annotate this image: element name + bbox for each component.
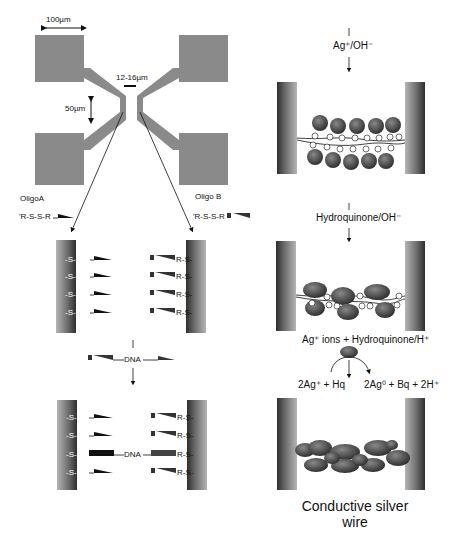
- oligo-a-strands: [90, 256, 112, 313]
- dna-label: DNA: [124, 355, 141, 364]
- dna-bridge-label: DNA: [124, 450, 141, 459]
- left-electrode-e: [276, 241, 296, 331]
- thiol-linker-label: R-S-: [176, 272, 192, 281]
- right-electrode-d: [405, 82, 425, 174]
- thiol-linker-label: -S-R-: [65, 255, 84, 264]
- reagent-ag-ions-label: Ag⁺ ions + Hydroquinone/H⁺: [302, 334, 429, 345]
- left-electrode-d: [277, 82, 297, 174]
- right-electrode-e: [405, 241, 425, 331]
- electrode-pads: [35, 35, 228, 185]
- dimension-50um-label: 50µm: [65, 104, 85, 113]
- ag-ion-spheres-top: [312, 115, 401, 134]
- thiol-linker-label: R-S-: [177, 450, 193, 459]
- thiol-linker-label: R-S-: [176, 308, 192, 317]
- thiol-linker-label: R-S-: [176, 255, 192, 264]
- thiol-linker-label: -S-R-: [65, 290, 84, 299]
- thiol-linker-label: -S-R-: [66, 450, 85, 459]
- caption-line-1: Conductive silver: [290, 498, 420, 514]
- thiol-linker-label: -S-R-: [65, 308, 84, 317]
- oligo-b-formula: 'R-S-S-R: [193, 212, 225, 221]
- reagent-ag-oh-label: Ag⁺/OH⁻: [333, 40, 373, 51]
- oligo-a-formula: 'R-S-S-R: [19, 212, 51, 221]
- reagent-hydroquinone-label: Hydroquinone/OH⁻: [316, 212, 401, 223]
- thiol-linker-label: R-S-: [176, 290, 192, 299]
- dimension-100um-label: 100µm: [46, 15, 71, 24]
- thiol-linker-label: R-S-: [177, 468, 193, 477]
- oligo-a-label: OligoA: [20, 194, 44, 203]
- diagram-graphics: [0, 0, 455, 540]
- oligo-b-label: Oligo B: [195, 192, 221, 201]
- left-electrode-f: [277, 398, 297, 490]
- left-electrode-b: [56, 240, 76, 333]
- thiol-linker-label: R-S-: [177, 431, 193, 440]
- caption-conductive-silver-wire: Conductive silver wire: [290, 498, 420, 530]
- thiol-linker-label: -S-R-: [66, 413, 85, 422]
- silver-aggregates-e: [303, 282, 395, 320]
- dimension-gap-label: 12-16µm: [116, 73, 148, 82]
- thiol-linker-label: -S-R-: [66, 431, 85, 440]
- reaction-left-label: 2Ag⁺ + Hq: [298, 379, 345, 390]
- thiol-linker-label: R-S-: [177, 413, 193, 422]
- caption-line-2: wire: [290, 514, 420, 530]
- negative-charges: [310, 133, 402, 152]
- right-electrode-f: [405, 398, 425, 490]
- right-electrode-b: [186, 240, 206, 333]
- reaction-right-label: 2Ag⁰ + Bq + 2H⁺: [364, 379, 439, 390]
- thiol-linker-label: -S-R-: [65, 272, 84, 281]
- thiol-linker-label: -S-R-: [66, 468, 85, 477]
- silver-wire: [295, 440, 410, 473]
- oligo-b-strands: [150, 255, 175, 313]
- ag-ion-spheres-bottom: [307, 149, 394, 170]
